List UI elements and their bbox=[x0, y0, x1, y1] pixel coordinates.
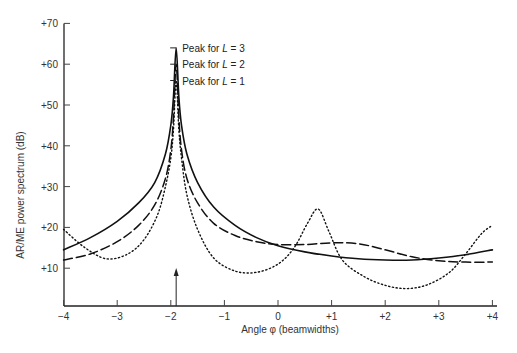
x-tick-label: −3 bbox=[111, 311, 123, 322]
chart-canvas: +10+20+30+40+50+60+70 −4−3−2−10+1+2+3+4 … bbox=[0, 0, 517, 353]
x-axis-label: Angle φ (beamwidths) bbox=[241, 324, 339, 335]
x-tick-label: −4 bbox=[58, 311, 70, 322]
x-tick-label: +4 bbox=[487, 311, 499, 322]
series-dashed-curve bbox=[64, 64, 493, 262]
y-tick-label: +50 bbox=[41, 100, 58, 111]
y-tick-label: +70 bbox=[41, 18, 58, 29]
series-solid-curve bbox=[64, 48, 493, 260]
y-tick-label: +40 bbox=[41, 141, 58, 152]
y-axis-label: AR/ME power spectrum (dB) bbox=[15, 131, 26, 258]
x-tick-label: −1 bbox=[219, 311, 231, 322]
x-axis-ticks: −4−3−2−10+1+2+3+4 bbox=[58, 300, 499, 322]
axes bbox=[64, 23, 497, 306]
x-tick-label: +3 bbox=[433, 311, 445, 322]
x-tick-label: 0 bbox=[275, 311, 281, 322]
x-tick-label: −2 bbox=[165, 311, 177, 322]
x-tick-label: +2 bbox=[379, 311, 391, 322]
y-tick-label: +60 bbox=[41, 59, 58, 70]
peak-label: Peak for L = 3 bbox=[182, 43, 245, 54]
series-dotted-curve bbox=[64, 81, 493, 289]
peak-annotations: Peak for L = 3Peak for L = 2Peak for L =… bbox=[170, 43, 245, 306]
peak-label: Peak for L = 2 bbox=[182, 59, 245, 70]
y-tick-label: +10 bbox=[41, 263, 58, 274]
peak-label: Peak for L = 1 bbox=[182, 76, 245, 87]
x-tick-label: +1 bbox=[326, 311, 338, 322]
y-axis-ticks: +10+20+30+40+50+60+70 bbox=[41, 18, 70, 274]
y-tick-label: +20 bbox=[41, 222, 58, 233]
spectrum-curves bbox=[64, 48, 493, 289]
y-tick-label: +30 bbox=[41, 182, 58, 193]
arrow-up-icon bbox=[174, 268, 179, 276]
